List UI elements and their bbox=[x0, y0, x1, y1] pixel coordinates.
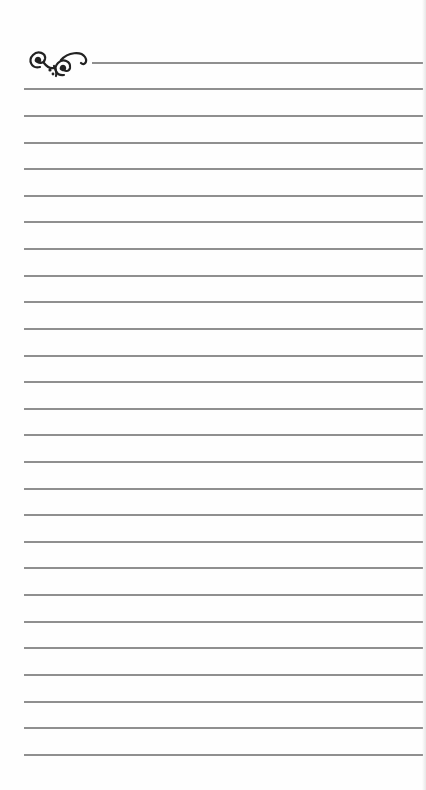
ruled-line bbox=[24, 221, 423, 223]
ruled-line bbox=[24, 594, 423, 596]
ruled-line bbox=[92, 62, 423, 64]
ruled-line bbox=[24, 355, 423, 357]
ruled-line bbox=[24, 301, 423, 303]
ruled-line bbox=[24, 567, 423, 569]
ruled-line bbox=[24, 621, 423, 623]
ruled-line bbox=[24, 754, 423, 756]
ruled-line bbox=[24, 434, 423, 436]
ruled-line bbox=[24, 701, 423, 703]
ruled-line bbox=[24, 674, 423, 676]
ruled-line bbox=[24, 168, 423, 170]
ruled-line bbox=[24, 514, 423, 516]
ruled-line bbox=[24, 248, 423, 250]
ruled-line bbox=[24, 488, 423, 490]
ruled-line bbox=[24, 541, 423, 543]
flourish-scroll-icon bbox=[26, 48, 88, 78]
ruled-line bbox=[24, 461, 423, 463]
ruled-line bbox=[24, 647, 423, 649]
ruled-line bbox=[24, 727, 423, 729]
page-edge-shadow bbox=[422, 0, 426, 790]
ruled-line bbox=[24, 408, 423, 410]
notepaper-page bbox=[0, 0, 426, 790]
ruled-line bbox=[24, 195, 423, 197]
ruled-line bbox=[24, 328, 423, 330]
ruled-line bbox=[24, 275, 423, 277]
ruled-line bbox=[24, 88, 423, 90]
ruled-line bbox=[24, 142, 423, 144]
ruled-line bbox=[24, 115, 423, 117]
ruled-line bbox=[24, 381, 423, 383]
